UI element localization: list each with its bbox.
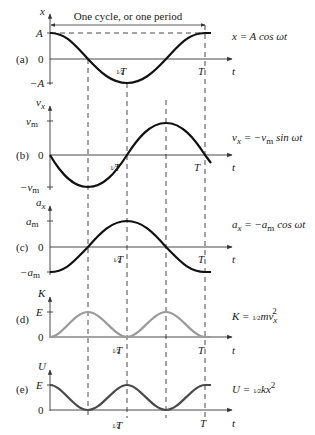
T-label-e: T <box>200 417 207 429</box>
t-label-d: t <box>232 344 236 356</box>
panel-tag-b: (b) <box>16 149 29 162</box>
t-label-e: t <box>232 417 236 429</box>
half-T-b: T <box>114 161 121 173</box>
y-axis-label-vx: vx <box>36 96 45 111</box>
tick-E-e: E <box>35 379 43 391</box>
equation-e: U = 1⁄2kx2 <box>232 380 275 395</box>
panel-c: ax am (c) 0 −am 1⁄2 T T t ax = −am cos ω… <box>16 196 306 280</box>
tick-zero-b: 0 <box>38 149 44 161</box>
panel-tag-e: (e) <box>16 383 29 396</box>
panel-d: K E (d) 0 1⁄2 T T t K = 1⁄2mvx2 <box>16 287 277 356</box>
equation-a: x = A cos ωt <box>231 30 288 42</box>
panel-tag-c: (c) <box>16 241 29 254</box>
cycle-label: One cycle, or one period <box>74 10 183 22</box>
half-T-d: T <box>116 344 123 356</box>
t-label-a: t <box>232 65 236 77</box>
tick-neg-am: −am <box>20 266 40 280</box>
tick-zero-a: 0 <box>38 53 44 65</box>
panel-e: U E (e) 0 1⁄2 T T t U = 1⁄2kx2 <box>16 360 275 431</box>
period-bracket: One cycle, or one period <box>51 10 205 25</box>
tick-neg-vm: −vm <box>20 181 39 195</box>
y-axis-label-K: K <box>37 287 46 299</box>
T-label-c: T <box>198 253 205 265</box>
curve-U-potential <box>50 385 211 410</box>
tick-E-d: E <box>35 306 43 318</box>
equation-c: ax = −am cos ωt <box>232 218 306 233</box>
curve-a-neg-cos <box>50 221 211 272</box>
half-T-a: T <box>120 65 127 77</box>
tick-am: am <box>26 215 39 229</box>
panel-tag-a: (a) <box>16 53 29 66</box>
tick-vm: vm <box>26 115 38 129</box>
tick-zero-c: 0 <box>38 241 44 253</box>
t-label-c: t <box>232 253 236 265</box>
panel-tag-d: (d) <box>16 313 29 326</box>
y-axis-label-U: U <box>38 360 47 372</box>
oscillation-diagram: One cycle, or one period x A (a) 0 −A 1⁄… <box>0 0 315 435</box>
y-axis-label-ax: ax <box>36 196 46 211</box>
equation-b: vx = −vm sin ωt <box>232 131 303 146</box>
tick-A: A <box>35 27 43 39</box>
y-axis-label-x: x <box>39 5 45 17</box>
half-T-e: T <box>116 419 123 431</box>
t-label-b: t <box>232 161 236 173</box>
tick-neg-A: −A <box>30 77 44 89</box>
T-label-a: T <box>198 65 205 77</box>
half-T-c: T <box>117 253 124 265</box>
curve-x-cos <box>50 33 211 83</box>
T-label-d: T <box>198 344 205 356</box>
tick-zero-d: 0 <box>38 331 44 343</box>
equation-d: K = 1⁄2mvx2 <box>231 306 277 325</box>
tick-zero-e: 0 <box>38 404 44 416</box>
panel-b: vx vm (b) 0 −vm 1⁄2 T T t vx = −vm sin ω… <box>16 96 303 195</box>
T-label-b: T <box>194 161 201 173</box>
curve-K-kinetic <box>50 312 211 337</box>
